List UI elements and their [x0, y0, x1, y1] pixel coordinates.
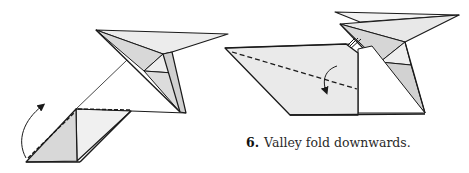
left-diagram: [22, 30, 228, 162]
right-diagram: [225, 12, 459, 115]
step-number: 6.: [246, 135, 259, 150]
tail-right-face: [76, 109, 131, 161]
origami-diagram: 6.Valley fold downwards.: [0, 0, 469, 173]
step-caption: 6.Valley fold downwards.: [246, 135, 411, 150]
step-instruction: Valley fold downwards.: [264, 135, 411, 150]
front-panel: [225, 44, 358, 115]
